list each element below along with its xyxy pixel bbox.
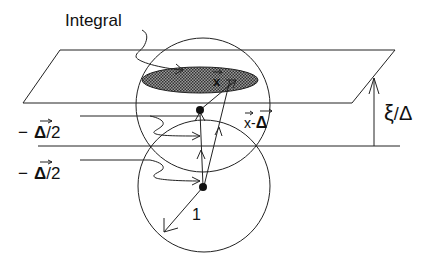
diagram-canvas: Integral x x-Δ −Δ/2 −Δ/2 1 ξ/Δ <box>0 0 441 260</box>
upper-center-dot <box>196 106 204 114</box>
minus-delta-half-upper: −Δ/2 <box>18 123 60 142</box>
x-minus-delta-label: x-Δ <box>244 114 267 131</box>
x-label: x <box>213 74 221 89</box>
geometry-diagram: Integral x x-Δ −Δ/2 −Δ/2 1 ξ/Δ <box>0 0 441 260</box>
lower-delta-leader <box>150 160 200 181</box>
half: /2 <box>46 123 60 142</box>
delta-symbol: Δ <box>399 102 412 124</box>
x-minus-delta-arrowhead <box>215 127 222 136</box>
lower-center-dot <box>199 183 207 191</box>
delta-vector-arrowhead-mid <box>197 150 205 159</box>
half: /2 <box>46 164 60 183</box>
delta-vector <box>200 112 203 186</box>
integral-region <box>142 67 258 93</box>
delta-symbol: Δ <box>34 123 46 142</box>
xi-over-delta-label: ξ/Δ <box>384 100 412 125</box>
delta-part: Δ <box>256 114 268 131</box>
minus-sign: − <box>18 164 28 183</box>
integral-label: Integral <box>65 11 122 30</box>
minus-delta-half-lower: −Δ/2 <box>18 164 60 183</box>
unit-radius-label: 1 <box>192 206 201 223</box>
delta-symbol: Δ <box>34 164 46 183</box>
x-minus-part: x- <box>244 115 256 131</box>
xi-symbol: ξ <box>384 100 394 125</box>
minus-sign: − <box>18 123 28 142</box>
upper-delta-leader <box>150 116 200 136</box>
upper-sphere <box>136 38 270 172</box>
